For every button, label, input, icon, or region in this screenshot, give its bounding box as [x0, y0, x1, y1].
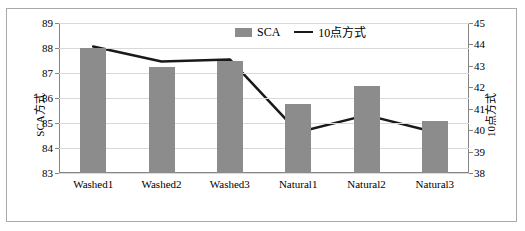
- gridline: [59, 173, 469, 174]
- right-axis-tickmark: [469, 66, 473, 67]
- left-axis-tick-label: 83: [31, 167, 53, 179]
- left-axis-tick-label: 89: [31, 17, 53, 29]
- gridline: [59, 123, 469, 124]
- right-axis-tickmark: [469, 173, 473, 174]
- x-axis-tick-label: Washed3: [210, 178, 250, 190]
- chart-plot-wrapper: SCA方式 10点方式 89888786858483 4544434241403…: [7, 9, 516, 221]
- x-axis-tick-label: Natural1: [279, 178, 317, 190]
- bar-washed2[interactable]: [149, 67, 175, 173]
- left-axis-tick-label: 88: [31, 42, 53, 54]
- left-axis-tickmark: [55, 148, 59, 149]
- right-axis-tickmark: [469, 23, 473, 24]
- right-axis-tickmark: [469, 44, 473, 45]
- bar-natural1[interactable]: [285, 104, 311, 173]
- left-axis-tickmark: [55, 98, 59, 99]
- gridline: [59, 98, 469, 99]
- gridline: [59, 23, 469, 24]
- right-axis-tick-label: 39: [474, 146, 496, 158]
- bar-natural3[interactable]: [422, 121, 448, 174]
- bar-washed1[interactable]: [80, 48, 106, 173]
- gridline: [59, 148, 469, 149]
- bar-washed3[interactable]: [217, 61, 243, 174]
- right-axis-tick-label: 40: [474, 124, 496, 136]
- line-series-ten-point[interactable]: [93, 47, 435, 133]
- right-axis-tick-label: 38: [474, 167, 496, 179]
- bar-natural2[interactable]: [354, 86, 380, 174]
- right-axis-tick-label: 44: [474, 38, 496, 50]
- right-axis-tickmark: [469, 109, 473, 110]
- chart-container: SCA方式 10点方式 89888786858483 4544434241403…: [6, 8, 517, 222]
- left-axis-tickmark: [55, 123, 59, 124]
- right-axis-tick-label: 45: [474, 17, 496, 29]
- left-axis-tick-label: 84: [31, 142, 53, 154]
- right-axis-tickmark: [469, 152, 473, 153]
- right-axis-tickmark: [469, 130, 473, 131]
- x-axis-tick-label: Natural3: [416, 178, 454, 190]
- plot-area: [59, 23, 469, 173]
- left-axis-tick-label: 86: [31, 92, 53, 104]
- x-axis-tick-label: Natural2: [347, 178, 385, 190]
- left-axis-tickmark: [55, 48, 59, 49]
- x-axis-tick-label: Washed2: [141, 178, 181, 190]
- gridline: [59, 48, 469, 49]
- right-axis-tick-label: 43: [474, 60, 496, 72]
- right-axis-tick-label: 41: [474, 103, 496, 115]
- gridline: [59, 73, 469, 74]
- right-axis-tick-label: 42: [474, 81, 496, 93]
- left-axis-tick-label: 87: [31, 67, 53, 79]
- left-axis-tickmark: [55, 73, 59, 74]
- left-axis-tick-label: 85: [31, 117, 53, 129]
- x-axis-tick-label: Washed1: [73, 178, 113, 190]
- left-axis-tickmark: [55, 23, 59, 24]
- right-axis-tickmark: [469, 87, 473, 88]
- left-axis-tickmark: [55, 173, 59, 174]
